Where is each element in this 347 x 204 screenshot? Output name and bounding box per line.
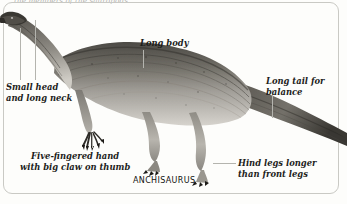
leader-line-body [143, 50, 144, 68]
annotation-small-head-line-2: and long neck [6, 93, 72, 104]
annotation-long-tail-line-1: Long tail for [266, 76, 325, 87]
leader-line-head-a [20, 28, 21, 80]
annotation-long-body: Long body [140, 38, 189, 49]
annotation-small-head-line-1: Small head [6, 82, 72, 93]
annotation-hind-legs-line-2: than front legs [238, 169, 316, 180]
leader-line-hand [92, 133, 93, 148]
leader-line-hind-legs [213, 163, 236, 164]
annotation-long-tail: Long tail for balance [266, 76, 325, 97]
annotation-long-tail-line-2: balance [266, 87, 325, 98]
annotation-hind-legs-line-1: Hind legs longer [238, 158, 316, 169]
figure-page: the members of the sauropods [0, 0, 347, 204]
annotation-long-body-line-1: Long body [140, 38, 189, 49]
species-caption: ANCHISAURUS [133, 176, 195, 185]
annotation-hind-legs: Hind legs longer than front legs [238, 158, 316, 179]
annotation-five-fingered-hand: Five-fingered hand with big claw on thum… [20, 151, 130, 172]
annotation-five-fingered-hand-line-1: Five-fingered hand [20, 151, 130, 162]
leader-line-head-b [35, 20, 36, 80]
annotation-small-head: Small head and long neck [6, 82, 72, 103]
annotation-five-fingered-hand-line-2: with big claw on thumb [20, 162, 130, 173]
